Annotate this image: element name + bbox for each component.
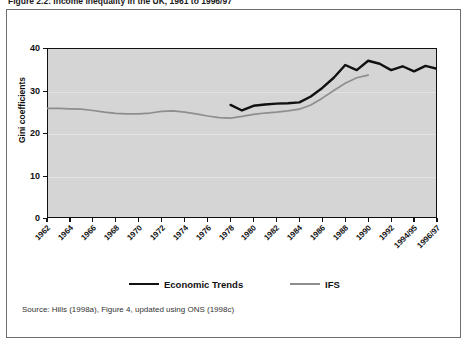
x-tick-mark-1972 [161,218,162,222]
figure-container: Figure 2.2: Income inequality in the UK,… [0,0,468,341]
x-tick-mark-1976 [207,218,208,222]
x-tick-mark-1994 [413,218,414,222]
legend-item-ifs: IFS [290,277,340,291]
y-tick-mark-20 [43,133,47,134]
x-tick-mark-1980 [253,218,254,222]
y-axis-label: Gini coefficients [17,55,27,165]
x-tick-mark-1984 [299,218,300,222]
x-tick-mark-1962 [46,218,47,222]
y-tick-mark-10 [43,176,47,177]
x-tick-mark-1978 [230,218,231,222]
x-tick-mark-1988 [345,218,346,222]
source-note: Source: Hills (1998a), Figure 4, updated… [22,305,234,314]
legend-swatch-economic-trends [129,283,159,286]
x-tick-mark-1996 [436,218,437,222]
legend-swatch-ifs [290,283,320,285]
figure-caption: Figure 2.2: Income inequality in the UK,… [8,0,448,6]
legend-label-economic-trends: Economic Trends [164,279,243,290]
x-tick-mark-1966 [92,218,93,222]
x-tick-mark-1974 [184,218,185,222]
chart-legend: Economic Trends IFS [47,277,437,291]
chart-series-layer [47,48,437,218]
series-line-ifs [47,75,368,118]
x-tick-mark-1992 [391,218,392,222]
y-tick-label-0: 0 [14,213,40,223]
x-tick-mark-1968 [115,218,116,222]
y-tick-label-40: 40 [14,43,40,53]
legend-label-ifs: IFS [325,279,340,290]
x-tick-mark-1970 [138,218,139,222]
y-tick-label-10: 10 [14,171,40,181]
x-tick-mark-1982 [276,218,277,222]
legend-item-economic-trends: Economic Trends [129,277,243,291]
x-tick-mark-1990 [368,218,369,222]
series-line-economic-trends [231,61,437,111]
y-tick-mark-40 [43,48,47,49]
x-tick-mark-1964 [69,218,70,222]
x-tick-mark-1986 [322,218,323,222]
y-tick-mark-30 [43,91,47,92]
